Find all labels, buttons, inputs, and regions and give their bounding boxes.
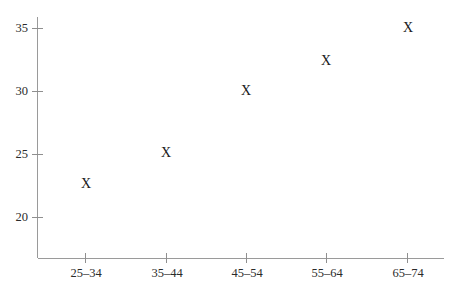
y-tick-label-35: 35 [16,21,29,35]
x-tick-label-2: 35–44 [151,266,183,280]
data-point-marker-5: X [403,20,413,35]
x-tick-label-5: 65–74 [392,266,424,280]
scatter-plot: 35 30 25 20 25–34 35–44 45–54 55–64 65–7… [0,0,458,294]
y-tick-label-20: 20 [16,210,29,224]
x-tick-label-1: 25–34 [70,266,102,280]
y-tick-label-30: 30 [16,84,29,98]
plot-background [0,0,458,294]
data-point-marker-2: X [161,145,171,160]
y-tick-label-25: 25 [16,147,29,161]
data-point-marker-4: X [321,53,331,68]
data-point-marker-1: X [81,176,91,191]
x-tick-label-4: 55–64 [311,266,343,280]
data-point-marker-3: X [241,83,251,98]
x-tick-label-3: 45–54 [231,266,263,280]
chart-page: 35 30 25 20 25–34 35–44 45–54 55–64 65–7… [0,0,458,294]
